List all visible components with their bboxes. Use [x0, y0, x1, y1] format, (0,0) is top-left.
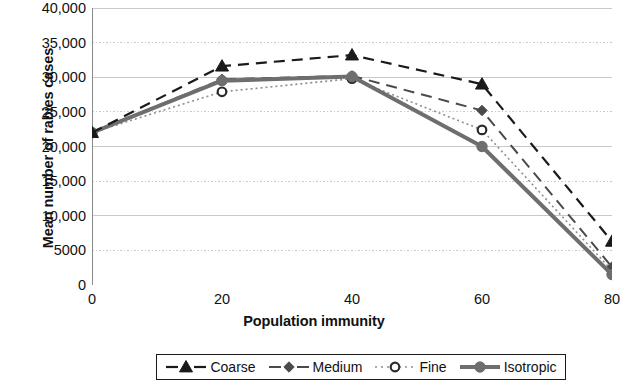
x-axis-tick-labels: 020406080 — [0, 291, 628, 315]
y-axis-tick-label: 10,000 — [0, 208, 86, 224]
legend-item-coarse[interactable]: Coarse — [159, 359, 261, 375]
data-point-marker — [346, 49, 359, 60]
y-axis-tick-label: 35,000 — [0, 35, 86, 51]
y-axis-tick-labels: 0500010,00015,00020,00025,00030,00035,00… — [0, 0, 86, 389]
data-point-marker — [477, 105, 487, 115]
data-point-marker — [478, 126, 487, 135]
data-point-marker — [217, 76, 227, 86]
data-point-marker — [391, 363, 400, 372]
data-point-marker — [180, 361, 193, 372]
y-axis-tick-label: 15,000 — [0, 173, 86, 189]
legend-item-fine[interactable]: Fine — [368, 359, 452, 375]
legend-item-isotropic[interactable]: Isotropic — [453, 359, 563, 375]
x-axis-title: Population immunity — [0, 313, 628, 329]
legend-item-medium[interactable]: Medium — [262, 359, 369, 375]
legend-swatch-coarse — [165, 359, 207, 375]
x-axis-tick-label: 20 — [214, 291, 230, 307]
chart-legend: CoarseMediumFineIsotropic — [156, 354, 566, 380]
series-line — [92, 77, 612, 275]
legend-label: Fine — [419, 360, 446, 374]
legend-swatch-medium — [268, 359, 310, 375]
legend-swatch-fine — [374, 359, 416, 375]
x-axis-tick-label: 40 — [344, 291, 360, 307]
x-axis-tick-label: 80 — [604, 291, 620, 307]
data-point-marker — [606, 235, 613, 246]
data-point-marker — [474, 362, 484, 372]
rabies-cases-line-chart: Mean number of rabies cases 0500010,0001… — [0, 0, 628, 389]
legend-label: Isotropic — [504, 360, 557, 374]
legend-label: Coarse — [210, 360, 255, 374]
plot-svg — [92, 8, 612, 285]
series-line — [92, 76, 612, 267]
data-point-marker — [477, 141, 487, 151]
legend-label: Medium — [313, 360, 363, 374]
legend-swatch-isotropic — [459, 359, 501, 375]
series-isotropic — [92, 71, 612, 279]
x-axis-tick-label: 60 — [474, 291, 490, 307]
data-point-marker — [218, 87, 227, 96]
y-axis-tick-label: 5000 — [0, 242, 86, 258]
y-axis-tick-label: 20,000 — [0, 139, 86, 155]
data-point-marker — [283, 362, 293, 372]
y-axis-tick-label: 40,000 — [0, 0, 86, 16]
y-axis-tick-label: 25,000 — [0, 104, 86, 120]
x-axis-tick-label: 0 — [88, 291, 96, 307]
plot-area — [92, 8, 612, 285]
y-axis-tick-label: 30,000 — [0, 69, 86, 85]
data-point-marker — [347, 71, 357, 81]
